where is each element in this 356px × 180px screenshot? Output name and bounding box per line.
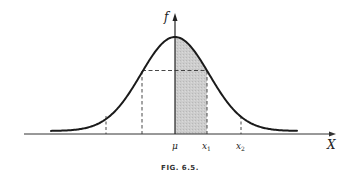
tick-label-x1-sub: 1 <box>207 145 211 152</box>
y-axis-arrow-icon <box>173 13 178 21</box>
tick-label-x2-sub: 2 <box>241 145 245 152</box>
figure-caption: FIG. 6.5. <box>161 164 199 172</box>
tick-label-x2: x2 <box>236 141 245 152</box>
x-axis-arrow-icon <box>329 132 336 137</box>
shaded-area-mu-to-x1 <box>175 37 207 134</box>
x-axis-label: X <box>326 138 336 152</box>
tick-label-mu: μ <box>172 141 178 151</box>
y-axis-label: f <box>163 10 171 24</box>
normal-distribution-figure: f X μ x1 x2 FIG. 6.5. <box>0 0 356 180</box>
normal-density-curve <box>51 37 297 131</box>
tick-label-x1: x1 <box>202 141 211 152</box>
